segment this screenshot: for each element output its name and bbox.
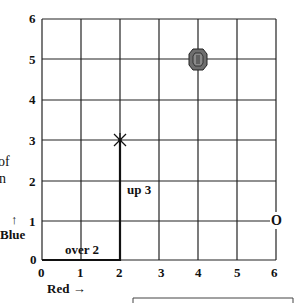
x-tick-1: 1 [77,266,84,279]
y-tick-4: 4 [29,93,36,106]
x-tick-4: 4 [195,266,202,279]
y-axis-arrow-icon: ↑ [11,213,18,226]
y-tick-6: 6 [29,12,36,25]
x-tick-2: 2 [116,266,123,279]
over-annotation: over 2 [65,243,99,256]
origin-marker: O [271,214,282,227]
x-axis-label: Red → [47,282,86,295]
x-tick-3: 3 [158,266,165,279]
side-text-line2: n [0,171,6,187]
x-tick-6: 6 [271,266,278,279]
x-tick-0: 0 [38,266,45,279]
y-tick-2: 2 [29,175,36,188]
y-tick-0: 0 [30,253,37,266]
y-axis-label: Blue [0,228,25,241]
side-text-line1: of [0,154,10,170]
coordinate-grid [0,0,295,303]
gem-icon [189,49,207,70]
y-tick-3: 3 [29,134,36,147]
up-annotation: up 3 [127,183,151,196]
y-tick-5: 5 [29,53,36,66]
y-tick-1: 1 [29,215,36,228]
x-tick-5: 5 [234,266,241,279]
